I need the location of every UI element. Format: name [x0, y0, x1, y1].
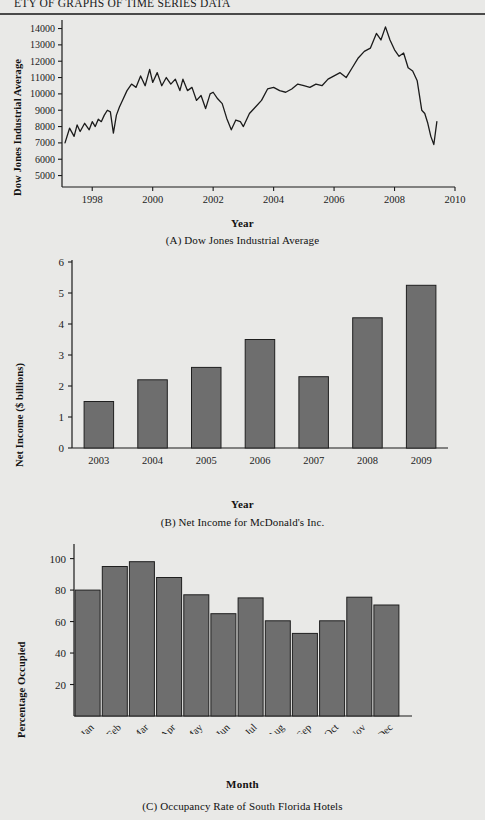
chart-a-y-tick-label: 13000 [30, 39, 55, 50]
chart-c-bar [320, 621, 345, 716]
chart-b-x-tick-label: 2007 [303, 455, 324, 466]
chart-c-x-tick-label: Jun [214, 721, 233, 734]
chart-c-bar [184, 595, 209, 716]
chart-c-x-tick-label: Mar [130, 721, 151, 734]
chart-a-canvas: 5000600070008000900010000110001200013000… [0, 14, 485, 214]
chart-b-x-tick-label: 2009 [411, 455, 432, 466]
chart-a-y-axis-title: Dow Jones Industrial Average [12, 59, 23, 196]
chart-b-bar [299, 377, 329, 448]
chart-b-x-tick-label: 2006 [250, 455, 271, 466]
chart-c-x-tick-label: Nov [347, 721, 368, 734]
chart-a-x-tick-label: 2002 [203, 194, 224, 205]
figure-b-caption: (B) Net Income for McDonald's Inc. [0, 516, 485, 528]
chart-c-x-tick-label: Oct [322, 722, 341, 734]
figure-dow-jones: Dow Jones Industrial Average 50006000700… [0, 14, 485, 252]
chart-b-x-tick-label: 2008 [357, 455, 378, 466]
chart-c-canvas: 20406080100JanFebMarAprMayJunJulAugSepOc… [0, 538, 485, 734]
chart-a-x-tick-label: 1998 [82, 194, 103, 205]
chart-c-y-tick-label: 60 [55, 616, 67, 628]
chart-b-y-tick-label: 1 [59, 411, 65, 423]
chart-c-bar [157, 578, 182, 717]
chart-a-y-tick-label: 7000 [35, 137, 55, 148]
chart-c-y-tick-label: 40 [55, 647, 67, 659]
chart-a-y-tick-label: 12000 [30, 56, 55, 67]
chart-c-y-tick-label: 100 [50, 553, 67, 565]
chart-a-x-tick-label: 2000 [142, 194, 163, 205]
chart-c-plot: Percentage Occupied 20406080100JanFebMar… [0, 538, 485, 734]
chart-a-y-tick-label: 8000 [35, 121, 55, 132]
chart-b-y-tick-label: 6 [59, 256, 65, 268]
chart-a-series-line [65, 27, 437, 145]
chart-a-y-tick-label: 9000 [35, 105, 55, 116]
chart-b-y-tick-label: 2 [59, 380, 65, 392]
chart-a-x-tick-label: 2008 [384, 194, 405, 205]
chart-b-y-tick-label: 5 [59, 287, 65, 299]
chart-b-x-tick-label: 2003 [88, 455, 109, 466]
chart-b-bar [353, 318, 383, 448]
chart-c-bar [211, 614, 236, 716]
figure-c-caption: (C) Occupancy Rate of South Florida Hote… [0, 800, 485, 812]
chart-c-x-axis-title: Month [0, 778, 485, 790]
chart-c-y-tick-label: 80 [55, 584, 67, 596]
chart-c-bar [265, 621, 290, 716]
chart-c-y-tick-label: 20 [55, 679, 67, 691]
chart-b-bar [406, 285, 436, 448]
figure-occupancy: Percentage Occupied 20406080100JanFebMar… [0, 538, 485, 820]
chart-c-bar [292, 633, 317, 716]
chart-a-y-tick-label: 6000 [35, 154, 55, 165]
chart-c-x-tick-label: Aug [266, 721, 287, 734]
chart-b-y-tick-label: 3 [59, 349, 65, 361]
chart-c-x-tick-label: May [183, 721, 205, 734]
chart-b-bar [192, 367, 222, 448]
chart-b-plot: Net Income ($ billions) 0123456200320042… [0, 252, 485, 480]
chart-c-x-tick-label: Sep [294, 722, 313, 734]
figure-a-caption: (A) Dow Jones Industrial Average [0, 234, 485, 246]
chart-c-x-tick-label: Feb [104, 722, 123, 734]
chart-b-canvas: 01234562003200420052006200720082009 [0, 252, 485, 480]
chart-b-x-tick-label: 2005 [196, 455, 217, 466]
chart-a-x-tick-label: 2004 [263, 194, 285, 205]
chart-a-plot: Dow Jones Industrial Average 50006000700… [0, 14, 485, 214]
chart-b-bar [84, 402, 114, 449]
chart-a-x-tick-label: 2006 [324, 194, 345, 205]
chart-a-x-tick-label: 2010 [445, 194, 466, 205]
chart-b-y-tick-label: 0 [59, 442, 65, 454]
chart-b-bar [245, 340, 275, 449]
chart-a-y-tick-label: 11000 [30, 72, 55, 83]
chart-c-x-tick-label: Dec [375, 721, 395, 734]
chart-c-bar [75, 590, 100, 716]
chart-a-y-tick-label: 14000 [30, 23, 55, 34]
chart-b-x-axis-title: Year [0, 498, 485, 510]
chart-c-bar [102, 567, 127, 717]
chart-c-x-tick-label: Jul [243, 722, 260, 734]
chart-a-y-tick-label: 10000 [30, 88, 55, 99]
figure-net-income: Net Income ($ billions) 0123456200320042… [0, 252, 485, 538]
chart-b-bar [138, 380, 168, 448]
chart-b-x-tick-label: 2004 [142, 455, 164, 466]
chart-c-bar [129, 562, 154, 716]
chart-c-x-tick-label: Apr [158, 721, 178, 734]
running-head: ETY OF GRAPHS OF TIME SERIES DATA [14, 0, 474, 10]
chart-a-y-tick-label: 5000 [35, 170, 55, 181]
chart-c-bar [238, 598, 263, 716]
chart-c-y-axis-title: Percentage Occupied [16, 642, 27, 738]
chart-c-x-tick-label: Jan [78, 721, 96, 734]
chart-c-bar [347, 597, 372, 716]
chart-b-y-tick-label: 4 [59, 318, 65, 330]
chart-c-bar [374, 605, 399, 716]
chart-b-y-axis-title: Net Income ($ billions) [14, 363, 25, 467]
chart-a-x-axis-title: Year [0, 217, 485, 229]
